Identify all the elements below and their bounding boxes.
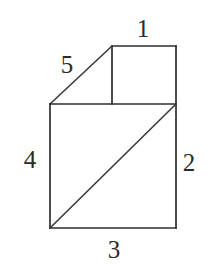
edge-label-1: 1 bbox=[131, 16, 155, 41]
edge-label-2: 2 bbox=[177, 150, 201, 175]
edge-label-5: 5 bbox=[55, 52, 79, 77]
figure-canvas: 1 5 4 2 3 bbox=[0, 0, 216, 268]
geometry-svg bbox=[0, 0, 216, 268]
edge-label-4: 4 bbox=[18, 147, 42, 172]
edge-label-3: 3 bbox=[102, 237, 126, 262]
